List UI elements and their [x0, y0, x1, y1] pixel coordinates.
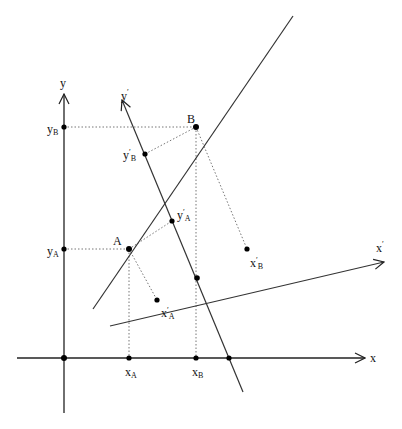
origin-prime-point — [194, 275, 200, 281]
proj-B-to-xpB — [196, 127, 247, 249]
x-prime-axis-label: x′ — [376, 240, 384, 255]
label-A: A — [113, 234, 122, 248]
coordinate-rotation-diagram: x y x′ y′ A B xA xB yA yB x′A x′B y′A y′… — [0, 0, 402, 429]
point-xpA — [154, 297, 159, 302]
label-ypB: y′B — [123, 148, 136, 163]
label-xpA: x′A — [161, 306, 175, 321]
label-B: B — [187, 112, 195, 126]
label-yA: yA — [47, 244, 59, 259]
label-xpB: x′B — [250, 256, 263, 271]
label-yB: yB — [47, 122, 58, 137]
label-ypA: y′A — [177, 208, 191, 223]
point-ypA — [169, 218, 174, 223]
projection-lines — [64, 127, 247, 358]
x-prime-axis — [110, 262, 384, 326]
proj-B-to-ypB — [145, 127, 196, 154]
point-xpB — [244, 246, 249, 251]
y-prime-axis — [122, 100, 243, 392]
point-ypB — [142, 151, 147, 156]
label-xA: xA — [125, 365, 137, 380]
point-yB — [61, 124, 66, 129]
x-axis-label: x — [370, 351, 376, 365]
point-A — [126, 246, 132, 252]
proj-A-to-xpA — [129, 249, 157, 300]
point-yA — [61, 246, 66, 251]
origin-point — [61, 355, 67, 361]
points — [61, 124, 250, 361]
y-prime-axis-label: y′ — [121, 88, 129, 103]
y-prime-x-intersection — [226, 355, 231, 360]
point-xB — [193, 355, 198, 360]
point-xA — [126, 355, 131, 360]
label-xB: xB — [192, 365, 203, 380]
y-axis-label: y — [60, 76, 66, 90]
